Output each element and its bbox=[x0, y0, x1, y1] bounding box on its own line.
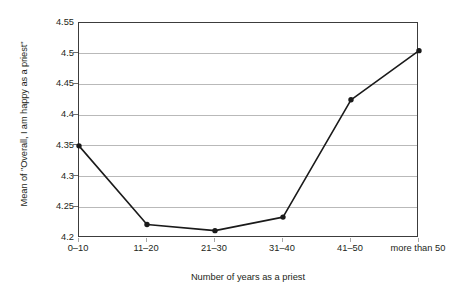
y-axis-tick-label: 4.25 bbox=[40, 201, 74, 211]
data-series-line: 0–10: 4.3511–20: 4.22221–30: 4.21231–40:… bbox=[79, 23, 419, 238]
chart-figure: Mean of "Overall, I am happy as a priest… bbox=[0, 0, 449, 298]
x-axis-tick-mark bbox=[350, 238, 351, 242]
x-axis-tick-label: 21–30 bbox=[179, 243, 249, 255]
x-axis-tick-label: 31–40 bbox=[247, 243, 317, 255]
y-axis-tick-label: 4.3 bbox=[40, 171, 74, 181]
x-axis-tick-mark bbox=[214, 238, 215, 242]
y-axis-tick-label: 4.45 bbox=[40, 78, 74, 88]
x-axis-title: Number of years as a priest bbox=[78, 272, 418, 282]
x-axis-tick-mark bbox=[146, 238, 147, 242]
data-point-marker: 41–50: 4.425 bbox=[348, 97, 353, 102]
data-point-marker: 11–20: 4.222 bbox=[144, 222, 149, 227]
x-axis-tick-label: more than 50 bbox=[383, 243, 449, 255]
x-axis-tick-mark bbox=[282, 238, 283, 242]
data-point-marker: 0–10: 4.35 bbox=[76, 143, 81, 148]
x-axis-tick-label: 0–10 bbox=[43, 243, 113, 255]
y-axis-title: Mean of "Overall, I am happy as a priest… bbox=[16, 8, 32, 240]
plot-area: 0–10: 4.3511–20: 4.22221–30: 4.21231–40:… bbox=[78, 22, 418, 237]
data-point-marker: 21–30: 4.212 bbox=[212, 228, 217, 233]
series-line bbox=[79, 51, 419, 231]
y-axis-tick-label: 4.35 bbox=[40, 140, 74, 150]
x-axis-tick-mark bbox=[78, 238, 79, 242]
y-axis-tick-label: 4.55 bbox=[40, 17, 74, 27]
y-axis-tick-label: 4.2 bbox=[40, 232, 74, 242]
data-point-marker: 31–40: 4.234 bbox=[280, 214, 285, 219]
x-axis-tick-label: 11–20 bbox=[111, 243, 181, 255]
data-point-marker: more than 50: 4.505 bbox=[416, 48, 421, 53]
x-axis-tick-label: 41–50 bbox=[315, 243, 385, 255]
x-axis-tick-mark bbox=[418, 238, 419, 242]
y-axis-tick-label: 4.4 bbox=[40, 109, 74, 119]
y-axis-tick-label: 4.5 bbox=[40, 48, 74, 58]
